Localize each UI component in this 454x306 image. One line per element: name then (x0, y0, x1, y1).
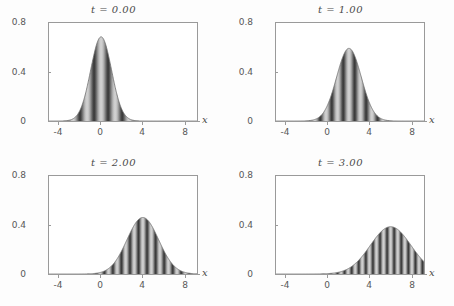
y-tick-mark-t3-2 (275, 175, 278, 176)
x-tick-mark-t2-2 (142, 275, 143, 278)
y-tick-label-t0-2: 0.8 (12, 17, 26, 27)
y-tick-label-t0-0: 0 (20, 116, 26, 126)
x-axis-label-t0: x (202, 114, 208, 125)
y-tick-label-t2-1: 0.4 (12, 220, 26, 230)
x-axis-label-t2: x (202, 267, 208, 278)
panel-title-t0: t = 0.00 (0, 4, 227, 15)
x-tick-mark-t3-1 (327, 275, 328, 278)
x-tick-label-t3-0: -4 (275, 280, 295, 290)
y-tick-label-t2-2: 0.8 (12, 170, 26, 180)
y-tick-label-t3-1: 0.4 (239, 220, 253, 230)
y-tick-mark-t1-1 (275, 72, 278, 73)
wave-packet-fill (49, 37, 197, 121)
plot-area-t2 (49, 176, 197, 274)
plot-frame-t3 (275, 175, 425, 275)
y-tick-label-t3-2: 0.8 (239, 170, 253, 180)
x-tick-mark-t2-3 (185, 275, 186, 278)
wave-packet-fill (49, 218, 197, 274)
x-tick-label-t1-2: 4 (359, 127, 379, 137)
plot-area-t0 (49, 23, 197, 121)
y-tick-label-t2-0: 0 (20, 269, 26, 279)
y-tick-mark-t0-2 (48, 22, 51, 23)
x-tick-mark-t1-1 (327, 122, 328, 125)
zero-baseline-t2 (48, 274, 200, 275)
y-tick-mark-t3-0 (275, 274, 278, 275)
x-axis-label-t1: x (429, 114, 435, 125)
x-tick-label-t0-0: -4 (48, 127, 68, 137)
y-tick-mark-t2-2 (48, 175, 51, 176)
plot-frame-t2 (48, 175, 198, 275)
panel-title-text-t0: t = 0.00 (91, 4, 136, 15)
plot-panel-t0: t = 0.00 x 0.8 0.4 0 -4 0 4 8 (0, 0, 227, 153)
y-tick-label-t0-1: 0.4 (12, 67, 26, 77)
y-tick-label-t1-2: 0.8 (239, 17, 253, 27)
x-axis-label-t3: x (429, 267, 435, 278)
panel-title-t2: t = 2.00 (0, 157, 227, 168)
y-tick-mark-t1-2 (275, 22, 278, 23)
x-tick-label-t3-2: 4 (359, 280, 379, 290)
y-tick-mark-t2-1 (48, 225, 51, 226)
x-tick-label-t1-0: -4 (275, 127, 295, 137)
plot-panel-t3: t = 3.00 x 0.8 0.4 0 -4 0 4 8 (227, 153, 454, 306)
x-tick-mark-t1-2 (369, 122, 370, 125)
y-tick-mark-t2-0 (48, 274, 51, 275)
y-tick-mark-t0-1 (48, 72, 51, 73)
x-tick-label-t1-3: 8 (402, 127, 422, 137)
x-tick-mark-t3-2 (369, 275, 370, 278)
x-tick-label-t0-1: 0 (90, 127, 110, 137)
x-tick-label-t2-2: 4 (132, 280, 152, 290)
plot-area-t3 (276, 176, 424, 274)
x-tick-label-t2-0: -4 (48, 280, 68, 290)
x-tick-mark-t1-3 (412, 122, 413, 125)
y-tick-mark-t3-1 (275, 225, 278, 226)
x-tick-mark-t0-0 (58, 122, 59, 125)
x-tick-label-t0-3: 8 (175, 127, 195, 137)
x-tick-mark-t2-0 (58, 275, 59, 278)
y-tick-label-t1-1: 0.4 (239, 67, 253, 77)
wave-packet-figure: t = 0.00 x 0.8 0.4 0 -4 0 4 8 t = 1.00 x… (0, 0, 454, 306)
zero-baseline-t0 (48, 121, 200, 122)
panel-title-text-t2: t = 2.00 (91, 157, 136, 168)
plot-area-t1 (276, 23, 424, 121)
zero-baseline-t1 (275, 121, 427, 122)
x-tick-mark-t0-2 (142, 122, 143, 125)
x-tick-mark-t0-1 (100, 122, 101, 125)
x-tick-label-t2-1: 0 (90, 280, 110, 290)
x-tick-label-t2-3: 8 (175, 280, 195, 290)
x-tick-mark-t3-0 (285, 275, 286, 278)
x-tick-mark-t1-0 (285, 122, 286, 125)
x-tick-label-t0-2: 4 (132, 127, 152, 137)
x-tick-mark-t3-3 (412, 275, 413, 278)
plot-frame-t1 (275, 22, 425, 122)
y-tick-label-t3-0: 0 (247, 269, 253, 279)
x-tick-mark-t2-1 (100, 275, 101, 278)
y-tick-label-t1-0: 0 (247, 116, 253, 126)
x-tick-mark-t0-3 (185, 122, 186, 125)
wave-packet-envelope (49, 37, 197, 121)
panel-title-text-t3: t = 3.00 (318, 157, 363, 168)
plot-panel-t1: t = 1.00 x 0.8 0.4 0 -4 0 4 8 (227, 0, 454, 153)
x-tick-label-t1-1: 0 (317, 127, 337, 137)
panel-title-t1: t = 1.00 (227, 4, 454, 15)
plot-panel-t2: t = 2.00 x 0.8 0.4 0 -4 0 4 8 (0, 153, 227, 306)
panel-title-text-t1: t = 1.00 (318, 4, 363, 15)
y-tick-mark-t1-0 (275, 121, 278, 122)
x-tick-label-t3-1: 0 (317, 280, 337, 290)
panel-title-t3: t = 3.00 (227, 157, 454, 168)
y-tick-mark-t0-0 (48, 121, 51, 122)
plot-frame-t0 (48, 22, 198, 122)
zero-baseline-t3 (275, 274, 427, 275)
wave-packet-fill (276, 48, 424, 121)
x-tick-label-t3-3: 8 (402, 280, 422, 290)
